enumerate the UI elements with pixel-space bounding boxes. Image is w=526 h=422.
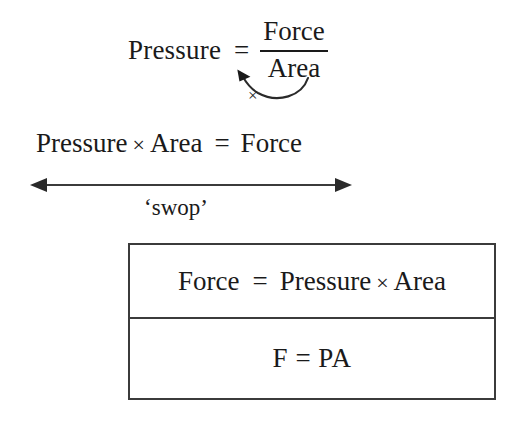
multiply-icon: × [132, 132, 144, 157]
equals-sign: = [214, 128, 229, 158]
pressure-term: Pressure [36, 128, 127, 158]
diagram-canvas: Pressure = Force Area × Pressure×Area=Fo… [0, 0, 526, 422]
result-row-symbols: F = PA [130, 319, 494, 398]
curved-multiply-arrow-icon [228, 56, 318, 110]
force-term: Force [178, 266, 239, 296]
multiply-icon: × [376, 270, 388, 295]
result-box: Force=Pressure×Area F = PA [128, 243, 496, 400]
swop-label: ‘swop’ [0, 196, 352, 219]
multiply-operator-annotation: × [248, 87, 258, 104]
pressure-term: Pressure [280, 266, 371, 296]
pressure-term: Pressure [128, 37, 221, 64]
force-term: Force [241, 128, 302, 158]
fraction-numerator: Force [260, 17, 327, 46]
force-equals-pressure-times-area: Force=Pressure×Area [178, 268, 446, 295]
fraction-bar [260, 50, 327, 52]
result-row-words: Force=Pressure×Area [130, 245, 494, 319]
swop-double-arrow-icon [30, 174, 352, 196]
symbolic-formula: F = PA [273, 345, 352, 372]
area-term: Area [150, 128, 202, 158]
area-term: Area [394, 266, 446, 296]
equation-pressure-times-area: Pressure×Area=Force [36, 130, 302, 157]
equals-sign: = [252, 266, 267, 296]
